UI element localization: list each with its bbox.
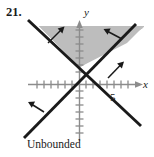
y-axis-label: y: [84, 7, 89, 18]
x-axis-arrowhead: [135, 81, 143, 88]
problem-number: 21.: [6, 6, 22, 19]
arrow-lower-right: [108, 62, 124, 79]
coordinate-graph: [0, 0, 154, 157]
arrow-lower-left: [28, 102, 44, 112]
y-axis-arrowhead: [76, 20, 82, 28]
figure-caption: Unbounded: [27, 139, 81, 151]
x-axis-tick-label-5: 5: [110, 92, 116, 103]
feasible-region: [34, 21, 146, 68]
x-axis-label: x: [143, 79, 148, 90]
figure-container: 21. y x 5 Unbounded: [0, 0, 154, 157]
